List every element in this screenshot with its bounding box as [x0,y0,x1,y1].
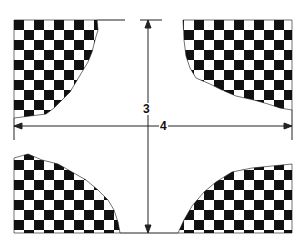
checkerboard-diagram [0,0,305,247]
checker-region-top-left [14,20,98,118]
arrow-right-icon [284,123,292,129]
arrow-up-icon [145,20,151,28]
checker-region-top-right [183,20,292,110]
vertical-dimension-label: 3 [142,103,151,115]
checker-region-bottom-right [178,164,292,233]
checker-region-bottom-left [14,154,120,233]
arrow-down-icon [145,225,151,233]
arrow-left-icon [14,123,22,129]
horizontal-dimension-label: 4 [159,120,168,132]
